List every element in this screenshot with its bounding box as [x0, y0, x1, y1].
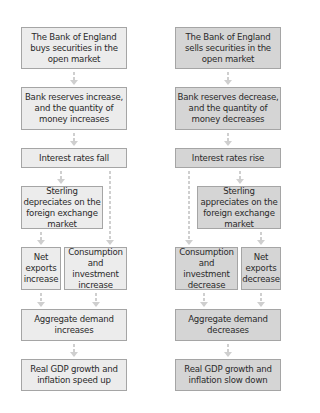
arrow-down-icon — [70, 71, 78, 85]
box-sterling-depreciates: Sterling depreciates on the foreign exch… — [21, 186, 103, 229]
arrow-down-icon — [57, 170, 65, 184]
box-label: Bank reserves decrease, and the quantity… — [176, 92, 280, 125]
box-label: Real GDP growth and inflation speed up — [22, 364, 126, 386]
box-net-exports-decrease: Net exports decrease — [241, 247, 281, 290]
arrow-down-icon — [92, 292, 100, 307]
box-gdp-speed-up: Real GDP growth and inflation speed up — [21, 359, 127, 391]
arrow-down-icon — [185, 170, 193, 245]
arrow-down-icon — [236, 170, 244, 184]
box-sterling-appreciates: Sterling appreciates on the foreign exch… — [197, 186, 281, 229]
arrow-down-icon — [200, 292, 208, 307]
box-buy-securities: The Bank of England buys securities in t… — [21, 27, 127, 69]
box-label: Aggregate demand decreases — [176, 314, 280, 336]
box-label: Real GDP growth and inflation slow down — [176, 364, 280, 386]
arrow-down-icon — [70, 132, 78, 146]
box-label: Sterling appreciates on the foreign exch… — [198, 186, 280, 230]
box-label: Net exports decrease — [242, 252, 280, 285]
arrow-down-icon — [224, 343, 232, 357]
box-label: Aggregate demand increases — [22, 314, 126, 336]
box-label: Bank reserves increase, and the quantity… — [22, 92, 126, 125]
arrow-down-icon — [224, 132, 232, 146]
box-label: Net exports increase — [22, 252, 60, 285]
box-label: Consumption and investment decrease — [176, 247, 237, 291]
box-label: Interest rates fall — [39, 153, 109, 164]
arrow-down-icon — [37, 231, 45, 245]
arrow-down-icon — [106, 170, 114, 245]
box-gdp-slow-down: Real GDP growth and inflation slow down — [175, 359, 281, 391]
box-interest-fall: Interest rates fall — [21, 148, 127, 168]
box-aggregate-demand-decreases: Aggregate demand decreases — [175, 309, 281, 341]
box-consumption-increase: Consumption and investment increase — [64, 247, 127, 290]
arrow-down-icon — [70, 343, 78, 357]
box-label: The Bank of England buys securities in t… — [22, 32, 126, 65]
box-label: The Bank of England sells securities in … — [176, 32, 280, 65]
box-sell-securities: The Bank of England sells securities in … — [175, 27, 281, 69]
box-interest-rise: Interest rates rise — [175, 148, 281, 168]
box-net-exports-increase: Net exports increase — [21, 247, 61, 290]
arrow-down-icon — [37, 292, 45, 307]
box-label: Sterling depreciates on the foreign exch… — [22, 186, 102, 230]
box-reserves-increase: Bank reserves increase, and the quantity… — [21, 87, 127, 130]
box-aggregate-demand-increases: Aggregate demand increases — [21, 309, 127, 341]
box-label: Consumption and investment increase — [65, 247, 126, 291]
box-reserves-decrease: Bank reserves decrease, and the quantity… — [175, 87, 281, 130]
box-label: Interest rates rise — [192, 153, 264, 164]
arrow-down-icon — [224, 71, 232, 85]
arrow-down-icon — [257, 231, 265, 245]
arrow-down-icon — [257, 292, 265, 307]
box-consumption-decrease: Consumption and investment decrease — [175, 247, 238, 290]
